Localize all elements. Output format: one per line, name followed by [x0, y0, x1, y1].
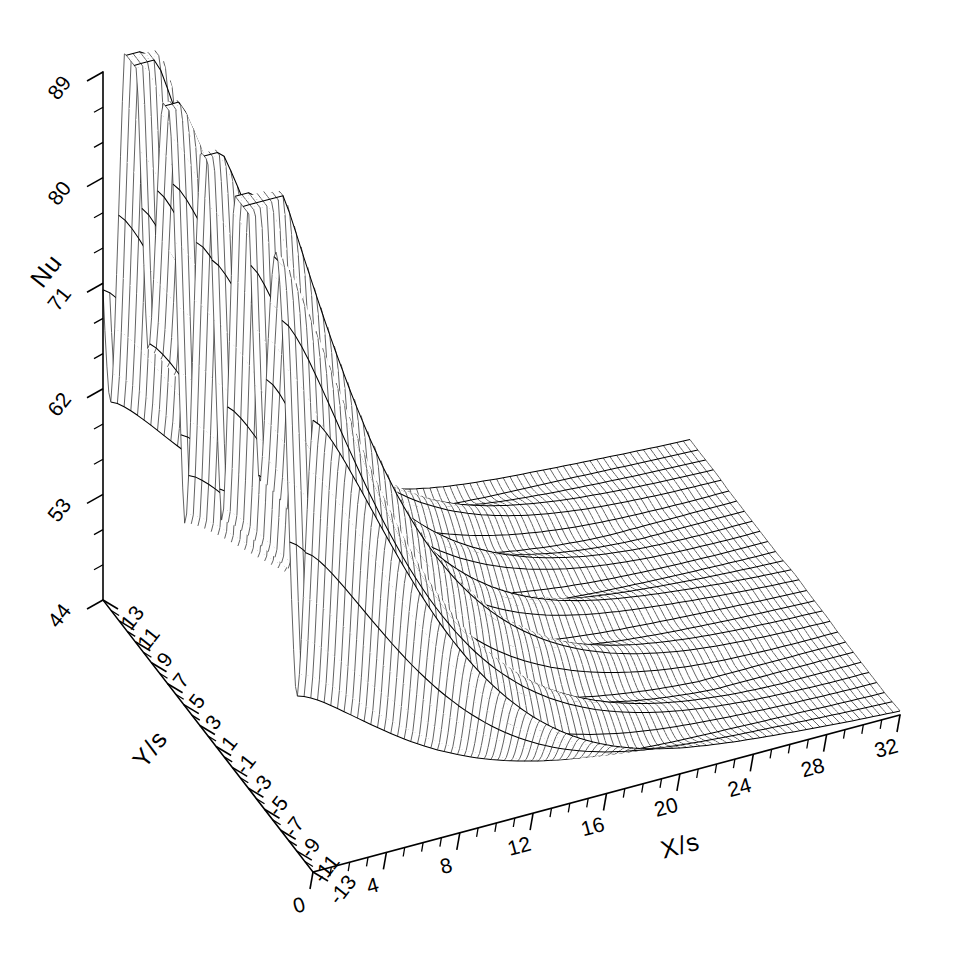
x-tick-minor: [348, 862, 350, 871]
z-tick-minor: [94, 459, 103, 464]
x-tick-minor: [807, 740, 809, 749]
z-tick-major: [87, 178, 103, 187]
x-tick-minor: [862, 725, 864, 734]
z-tick-label: 44: [43, 599, 76, 632]
x-tick-minor: [642, 784, 644, 793]
x-tick-minor: [880, 720, 882, 729]
wireframe-surface: [103, 51, 900, 761]
x-tick-minor: [367, 857, 369, 866]
z-tick-major: [87, 389, 103, 398]
z-tick-minor: [94, 354, 103, 359]
x-tick-label: 24: [725, 773, 754, 801]
x-tick-minor: [550, 808, 552, 817]
z-tick-minor: [94, 565, 103, 570]
surface-plot-figure: 048121620242832X/s131197531-1-3-5-7-9-11…: [0, 0, 976, 962]
z-tick-major: [87, 494, 103, 503]
x-tick-minor: [788, 744, 790, 753]
x-tick-minor: [733, 759, 735, 768]
x-tick-label: 28: [798, 753, 827, 781]
x-tick-label: 8: [437, 853, 454, 878]
z-tick-label: 89: [43, 71, 76, 104]
z-tick-minor: [94, 107, 103, 112]
x-tick-label: 32: [872, 734, 901, 762]
x-tick-minor: [403, 848, 405, 857]
z-tick-major: [87, 600, 103, 609]
x-tick-label: 4: [364, 872, 382, 897]
x-axis-title: X/s: [658, 827, 703, 864]
z-tick-minor: [94, 318, 103, 323]
x-tick-label: 0: [290, 892, 307, 917]
x-tick-major: [383, 852, 386, 869]
z-tick-minor: [94, 530, 103, 535]
x-tick-minor: [697, 769, 699, 778]
x-tick-label: 12: [505, 832, 534, 860]
x-tick-major: [530, 813, 533, 830]
x-tick-minor: [660, 779, 662, 788]
x-tick-minor: [623, 789, 625, 798]
x-tick-major: [824, 735, 827, 752]
plot-canvas: 048121620242832X/s131197531-1-3-5-7-9-11…: [0, 0, 976, 962]
x-tick-minor: [587, 798, 589, 807]
x-tick-minor: [440, 838, 442, 847]
x-tick-major: [604, 794, 607, 811]
x-tick-minor: [844, 730, 846, 739]
x-tick-major: [457, 833, 460, 850]
x-tick-minor: [513, 818, 515, 827]
x-tick-minor: [568, 803, 570, 812]
z-tick-minor: [94, 142, 103, 147]
x-tick-minor: [770, 749, 772, 758]
z-tick-label: 62: [43, 388, 76, 421]
x-tick-major: [897, 715, 900, 732]
x-tick-minor: [477, 828, 479, 837]
x-tick-minor: [495, 823, 497, 832]
x-tick-label: 20: [652, 793, 681, 821]
z-tick-label: 53: [43, 493, 76, 526]
z-tick-minor: [94, 424, 103, 429]
z-tick-major: [87, 283, 103, 292]
x-tick-major: [677, 774, 680, 791]
z-tick-label: 80: [43, 177, 76, 210]
y-tick-major: [103, 600, 118, 609]
x-tick-minor: [422, 843, 424, 852]
y-axis-title: Y/s: [127, 725, 173, 773]
x-tick-label: 16: [578, 812, 607, 840]
z-tick-minor: [94, 248, 103, 253]
z-tick-minor: [94, 213, 103, 218]
x-tick-major: [750, 754, 753, 771]
z-tick-major: [87, 72, 103, 81]
x-tick-minor: [715, 764, 717, 773]
